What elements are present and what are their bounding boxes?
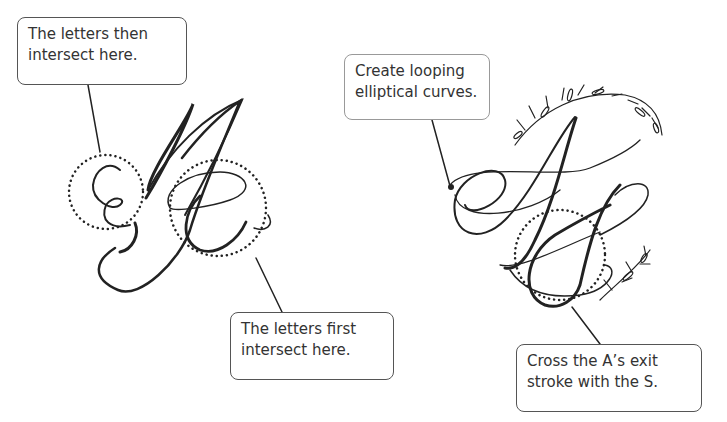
callout-cross-exit-stroke: Cross the A’s exit stroke with the S. — [516, 344, 702, 412]
leader-line-then — [88, 85, 100, 152]
callout-line: intersect here. — [241, 340, 383, 361]
callout-line: intersect here. — [28, 45, 176, 66]
callout-line: Cross the A’s exit — [527, 351, 691, 372]
mg-monogram — [93, 100, 270, 292]
callout-line: Create looping — [355, 61, 479, 82]
floral-sprig-bottom — [600, 246, 650, 300]
leader-line-cross — [572, 307, 600, 344]
callout-line: The letters then — [28, 24, 176, 45]
floral-sprig-top — [513, 85, 662, 145]
callout-line: The letters first — [241, 319, 383, 340]
callout-letters-first: The letters first intersect here. — [230, 312, 394, 380]
leader-line-loop — [432, 120, 450, 186]
leader-line-first — [256, 258, 282, 312]
callout-looping-curves: Create looping elliptical curves. — [344, 54, 490, 120]
callout-line: stroke with the S. — [527, 372, 691, 393]
callout-letters-then: The letters then intersect here. — [17, 17, 187, 85]
callout-line: elliptical curves. — [355, 82, 479, 103]
as-monogram — [450, 117, 648, 306]
